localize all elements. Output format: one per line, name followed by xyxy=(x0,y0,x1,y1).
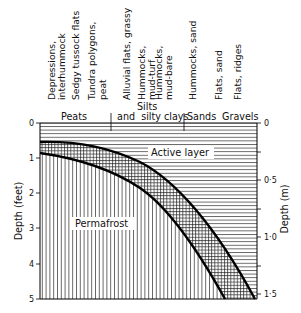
left-tick-1: 1 xyxy=(29,154,34,163)
left-tick-2: 2 xyxy=(29,189,34,198)
soil-silty-clays: and silty clays xyxy=(117,111,188,122)
left-tick-5: 5 xyxy=(29,295,34,304)
terrain-label-2b: peat xyxy=(97,79,108,100)
terrain-labels: Depressions, interhummock Sedgy tussock … xyxy=(46,7,243,101)
right-tick-1-5: 1·5 xyxy=(264,290,277,299)
right-axis-label: Depth (m) xyxy=(279,184,290,233)
right-tick-0-5: 0·5 xyxy=(264,176,277,185)
active-layer-label: Active layer xyxy=(151,147,210,158)
right-axis-ticks xyxy=(257,123,261,294)
terrain-label-6: Hummocks, sand xyxy=(187,21,198,100)
terrain-label-5b: mud-bare xyxy=(163,55,174,100)
terrain-label-7: Flats, sand xyxy=(213,50,224,100)
left-tick-0: 0 xyxy=(29,119,34,128)
permafrost-label: Permafrost xyxy=(75,218,128,229)
left-axis-label: Depth (feet) xyxy=(13,182,24,241)
terrain-label-0b: interhummock xyxy=(56,33,67,100)
left-tick-4: 4 xyxy=(29,260,34,269)
soil-sands: Sands xyxy=(187,111,216,122)
terrain-label-2a: Tundra polygons, xyxy=(86,21,97,101)
terrain-label-3: Alluvial flats, grassy xyxy=(121,7,132,100)
active-layer-diagram: 0 1 2 3 4 5 Depth (feet) 0 0·5 1·0 1·5 D… xyxy=(0,0,301,313)
left-tick-3: 3 xyxy=(29,224,34,233)
soil-gravels: Gravels xyxy=(222,111,259,122)
soil-peats: Peats xyxy=(61,111,87,122)
right-tick-0: 0 xyxy=(264,119,269,128)
terrain-label-1: Sedgy tussock flats xyxy=(70,11,81,100)
right-tick-1-0: 1·0 xyxy=(264,233,277,242)
terrain-label-8: Flats, ridges xyxy=(232,44,243,100)
left-axis-ticks xyxy=(36,123,40,299)
